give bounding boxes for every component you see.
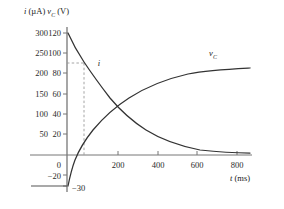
- y-label-voltage-100: 100: [48, 48, 61, 58]
- x-axis-title: t (ms): [230, 173, 250, 183]
- curve-label-i: i: [98, 58, 101, 68]
- x-label-600: 600: [191, 160, 204, 170]
- y-axis-current-labels: 300 250 200 150 100 50: [35, 28, 48, 139]
- y-label-voltage-minus30: −30: [72, 183, 85, 193]
- chart-figure: 300 250 200 150 100 50 120 100 80 60 40 …: [0, 0, 284, 209]
- y-axis-title: i (µA) vC (V): [24, 6, 69, 18]
- y-label-voltage-120: 120: [48, 28, 61, 38]
- y-label-current-150: 150: [35, 89, 48, 99]
- curve-current-i: [68, 33, 250, 153]
- x-label-400: 400: [152, 160, 165, 170]
- x-axis-labels: 200 400 600 800: [112, 160, 244, 170]
- y-label-current-100: 100: [35, 109, 48, 119]
- y-label-voltage-0: 0: [57, 160, 61, 170]
- y-label-current-50: 50: [40, 129, 49, 139]
- y-axis-voltage-labels: 120 100 80 60 40 20 0 −20: [48, 28, 61, 181]
- dashed-guides: [67, 63, 84, 155]
- y-label-voltage-minus20: −20: [48, 171, 61, 181]
- y-label-current-250: 250: [35, 48, 48, 58]
- x-label-200: 200: [112, 160, 125, 170]
- axes-group: [30, 27, 252, 192]
- y-label-current-200: 200: [35, 68, 48, 78]
- x-label-800: 800: [231, 160, 244, 170]
- y-label-voltage-40: 40: [53, 109, 62, 119]
- y-label-voltage-60: 60: [53, 89, 62, 99]
- y-label-voltage-80: 80: [53, 68, 62, 78]
- curve-label-vc: vC: [209, 48, 218, 60]
- y-label-voltage-20: 20: [53, 129, 62, 139]
- y-label-current-300: 300: [35, 28, 48, 38]
- rc-transient-chart: 300 250 200 150 100 50 120 100 80 60 40 …: [0, 0, 284, 209]
